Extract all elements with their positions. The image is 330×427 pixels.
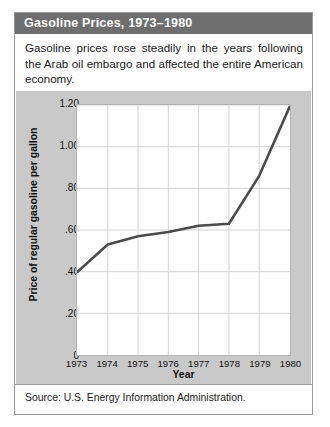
intro-section: Gasoline prices rose steadily in the yea… [15,34,312,91]
y-tick-label: .60 [45,224,79,235]
plot-area [76,104,291,356]
card-title-bar: Gasoline Prices, 1973–1980 [15,13,312,34]
source-note: Source: U.S. Energy Information Administ… [25,392,246,403]
x-tick-label: 1978 [212,358,246,369]
x-tick-label: 1980 [274,358,308,369]
chart-panel: Price of regular gasoline per gallon 0.2… [16,91,311,384]
y-tick-label: .80 [45,182,79,193]
y-tick-label: .20 [45,308,79,319]
x-tick-label: 1977 [182,358,216,369]
y-tick-label: 1.20 [45,98,79,109]
y-axis-title: Price of regular gasoline per gallon [28,115,39,315]
page-title: Gasoline Prices, 1973–1980 [24,16,193,30]
horizontal-gridlines [77,105,290,313]
x-tick-label: 1975 [121,358,155,369]
x-tick-label: 1974 [90,358,124,369]
chart-card: Gasoline Prices, 1973–1980 Gasoline pric… [14,12,313,415]
y-tick-label: 1.00 [45,140,79,151]
price-line-series [77,107,289,272]
x-tick-label: 1973 [60,358,94,369]
x-tick-label: 1979 [243,358,277,369]
line-chart-svg [77,105,290,355]
y-tick-label: .40 [45,266,79,277]
x-tick-label: 1976 [151,358,185,369]
source-section: Source: U.S. Energy Information Administ… [15,384,312,414]
intro-paragraph: Gasoline prices rose steadily in the yea… [25,40,303,87]
x-axis-title: Year [76,369,291,380]
